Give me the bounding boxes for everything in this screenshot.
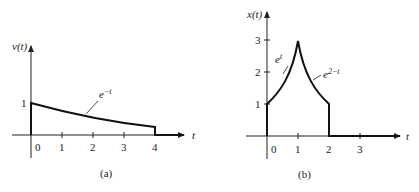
b-right-curve-label: e2−t (323, 67, 340, 80)
a-annotation-leader (86, 101, 98, 114)
a-xlabel: t (192, 129, 196, 141)
b-ylabel: x(t) (246, 8, 263, 21)
b-ytick-3: 3 (255, 34, 261, 46)
panel-b: x(t) t 1 2 3 0 1 2 3 et e2−t (b) (246, 8, 410, 181)
b-xtick-0: 0 (271, 143, 277, 155)
b-caption: (b) (298, 168, 311, 181)
panel-a: v(t) t 1 0 1 2 3 4 e−t (a) (12, 40, 196, 180)
a-xtick-2: 2 (90, 141, 96, 153)
a-xtick-4: 4 (152, 141, 158, 153)
figure: v(t) t 1 0 1 2 3 4 e−t (a) x(t) t 1 2 3 … (0, 0, 419, 192)
b-xtick-1: 1 (295, 143, 301, 155)
b-xlabel: t (406, 130, 410, 142)
a-curve-label: e−t (99, 87, 112, 100)
b-xtick-3: 3 (357, 143, 363, 155)
b-left-curve-label: et (275, 52, 283, 65)
a-signal-curve (31, 103, 184, 135)
a-xtick-1: 1 (59, 141, 65, 153)
a-xtick-3: 3 (121, 141, 127, 153)
b-left-leader (283, 66, 288, 74)
b-ytick-1: 1 (255, 98, 261, 110)
b-xtick-2: 2 (326, 143, 332, 155)
a-xtick-0: 0 (35, 141, 41, 153)
b-right-leader (313, 75, 321, 80)
b-signal-curve (267, 41, 400, 136)
a-ytick-1: 1 (21, 97, 27, 109)
b-ytick-2: 2 (255, 66, 261, 78)
a-ylabel: v(t) (12, 40, 28, 53)
a-caption: (a) (100, 167, 113, 180)
